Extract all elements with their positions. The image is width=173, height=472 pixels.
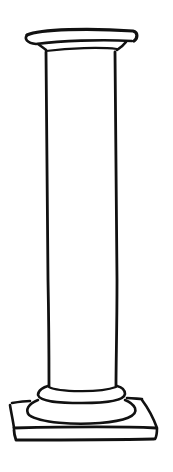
- plinth-top-right: [127, 398, 142, 399]
- plinth-front-top: [14, 427, 156, 428]
- shaft-right-edge: [115, 52, 117, 386]
- column-illustration: [0, 0, 173, 472]
